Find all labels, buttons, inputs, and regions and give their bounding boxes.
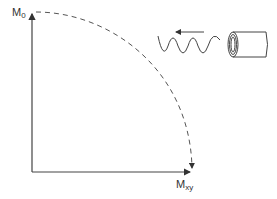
magnetization-diagram xyxy=(0,0,277,199)
x-axis-label: Mxy xyxy=(176,178,193,192)
rf-coil-icon xyxy=(228,32,268,57)
dashed-arc-arrow xyxy=(36,12,192,168)
sine-wave-icon xyxy=(158,36,220,53)
y-axis-label: M0 xyxy=(12,6,26,20)
